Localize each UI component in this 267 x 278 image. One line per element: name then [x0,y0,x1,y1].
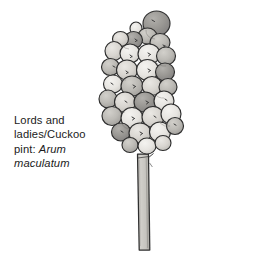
caption-line-2: ladies/Cuckoo [14,128,86,140]
berry-cluster [99,11,184,154]
caption-line-3-prefix: pint: [14,143,39,155]
caption-line-1: Lords and [14,114,65,126]
scientific-name-species: maculatum [14,157,70,169]
stalk [138,154,154,251]
arum-maculatum-illustration [92,6,202,266]
figure-root: Lords and ladies/Cuckoo pint: Arum macul… [0,0,267,278]
scientific-name-genus: Arum [39,143,66,155]
